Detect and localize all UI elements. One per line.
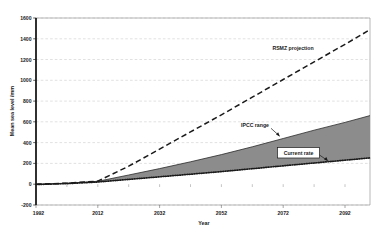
x-tick-label-2092: 2092 <box>339 210 350 216</box>
x-tick-label-1992: 1992 <box>33 210 44 216</box>
y-tick-label-200: 200 <box>23 160 32 166</box>
y-tick-label-0: 0 <box>29 181 32 187</box>
y-tick-label-minus200: -200 <box>21 202 31 208</box>
chart-svg: 1600 1400 1200 1000 800 600 400 200 0 -2… <box>0 0 386 239</box>
x-tick-label-2032: 2032 <box>154 210 165 216</box>
y-tick-label-600: 600 <box>23 119 32 125</box>
x-tick-label-2012: 2012 <box>92 210 103 216</box>
annotation-current-rate-label: Current rate <box>284 150 314 156</box>
plot-area-background <box>36 18 370 205</box>
x-tick-label-2052: 2052 <box>216 210 227 216</box>
y-tick-label-1600: 1600 <box>20 15 31 21</box>
y-tick-label-800: 800 <box>23 98 32 104</box>
x-axis-title: Year <box>198 220 210 226</box>
sea-level-chart-figure: 1600 1400 1200 1000 800 600 400 200 0 -2… <box>0 0 386 239</box>
x-tick-label-2072: 2072 <box>278 210 289 216</box>
y-tick-label-1200: 1200 <box>20 57 31 63</box>
y-tick-label-400: 400 <box>23 140 32 146</box>
annotation-rsmz-projection-label: RSMZ projection <box>272 45 313 51</box>
y-tick-label-1000: 1000 <box>20 77 31 83</box>
annotation-ipcc-range-label: IPCC range <box>241 122 269 128</box>
y-axis-title: Mean sea level /mm <box>9 86 15 137</box>
y-tick-label-1400: 1400 <box>20 36 31 42</box>
